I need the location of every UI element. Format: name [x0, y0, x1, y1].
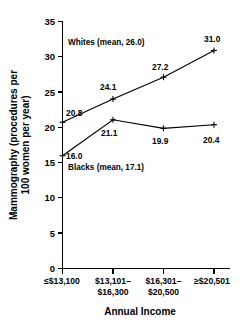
- x-tick-label-1-line2: $16,300: [97, 287, 128, 297]
- data-label-blacks-2: 19.9: [152, 136, 169, 146]
- series-line-blacks: [63, 120, 215, 156]
- x-tick-label-3: ≥$20,501: [194, 276, 230, 286]
- y-tick-label-25: 25: [44, 87, 55, 98]
- y-tick-label-10: 10: [44, 192, 55, 203]
- series-markers-blacks: [60, 117, 218, 159]
- data-label-blacks-3: 20.4: [203, 135, 220, 145]
- y-tick-label-30: 30: [44, 51, 55, 62]
- x-tick-label-1-line1: $13,101–: [95, 276, 131, 286]
- data-label-whites-3: 31.0: [204, 34, 221, 44]
- data-label-whites-2: 27.2: [152, 62, 169, 72]
- x-axis-title: Annual Income: [104, 306, 176, 317]
- data-label-blacks-1: 21.1: [101, 128, 118, 138]
- y-tick-label-0: 0: [50, 263, 55, 274]
- series-annotation-blacks: Blacks (mean, 17.1): [68, 163, 144, 172]
- chart-figure: 35 30 25 20 15 10 5 0 ≤$13,100 $13,101– …: [0, 0, 249, 322]
- data-label-whites-1: 24.1: [100, 82, 117, 92]
- y-tick-label-20: 20: [44, 122, 55, 133]
- x-tick-label-2-line1: $16,301–: [146, 276, 182, 286]
- series-markers-whites: [60, 47, 218, 125]
- y-axis-title-line2: 100 women per year): [20, 96, 31, 195]
- x-tick-label-2-line2: $20,500: [148, 287, 179, 297]
- series-annotation-whites: Whites (mean, 26.0): [68, 38, 145, 47]
- y-axis-title-line1: Mammography (procedures per: [8, 70, 19, 220]
- y-tick-label-35: 35: [44, 16, 55, 27]
- x-axis-ticks: [63, 269, 215, 274]
- y-tick-label-15: 15: [44, 157, 55, 168]
- y-tick-label-5: 5: [50, 228, 56, 239]
- chart-canvas: 35 30 25 20 15 10 5 0 ≤$13,100 $13,101– …: [0, 0, 249, 322]
- data-label-blacks-0: 16.0: [66, 151, 83, 161]
- x-tick-label-0: ≤$13,100: [44, 276, 80, 286]
- y-axis-ticks: [58, 22, 63, 269]
- series-line-whites: [63, 50, 215, 122]
- data-label-whites-0: 20.8: [66, 108, 83, 118]
